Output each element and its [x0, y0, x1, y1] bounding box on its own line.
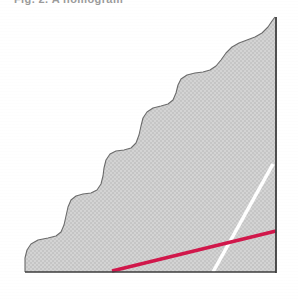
- figure-caption-text: Fig. 2. A nomogram: [14, 0, 123, 5]
- shaded-region-group: [25, 17, 276, 272]
- plot-canvas: [0, 0, 298, 299]
- shaded-region-texture-overlay: [25, 17, 276, 272]
- figure-caption-strip: Fig. 2. A nomogram: [0, 0, 298, 9]
- figure-root: Fig. 2. A nomogram: [0, 0, 298, 299]
